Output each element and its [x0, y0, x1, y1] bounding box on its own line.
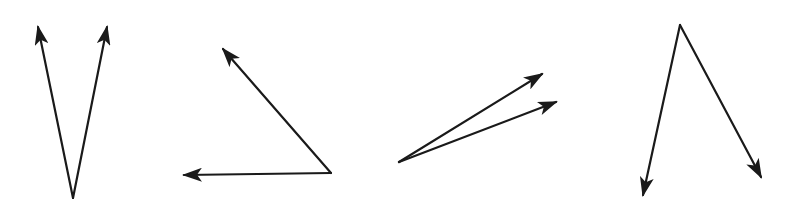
ray-arrow-1 — [38, 27, 73, 198]
angles-group — [38, 25, 761, 198]
ray-arrow-2 — [184, 173, 331, 175]
ray-arrow-1 — [223, 49, 331, 173]
angle-2 — [184, 49, 331, 175]
ray-arrow-1 — [399, 74, 542, 162]
angle-3 — [399, 74, 556, 162]
angle-1 — [38, 27, 107, 198]
ray-arrow-2 — [680, 25, 761, 177]
angle-diagram — [0, 0, 791, 214]
angles-figure — [0, 0, 791, 214]
angle-4 — [643, 25, 761, 195]
ray-arrow-2 — [73, 27, 107, 198]
ray-arrow-1 — [643, 25, 680, 195]
ray-arrow-2 — [399, 102, 556, 162]
